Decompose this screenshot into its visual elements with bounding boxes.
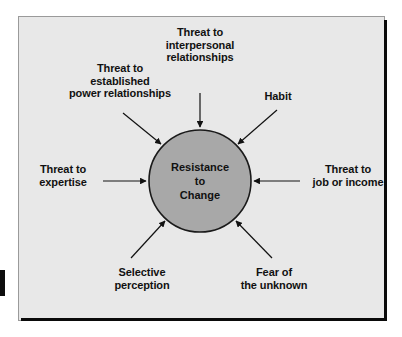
arrow-power-relationships — [123, 113, 161, 144]
label-job-or-income: Threat to job or income — [302, 163, 394, 188]
diagram-canvas: Resistance to Change Threat to interpers… — [0, 0, 402, 337]
label-power-relationships: Threat to established power relationship… — [46, 62, 194, 100]
center-label: Resistance to Change — [150, 160, 250, 202]
label-fear-of-unknown: Fear of the unknown — [228, 266, 320, 291]
label-expertise: Threat to expertise — [22, 163, 104, 188]
arrow-fear-of-unknown — [236, 221, 272, 258]
arrow-habit — [238, 110, 277, 144]
label-interpersonal-relationships: Threat to interpersonal relationships — [140, 26, 260, 64]
label-selective-perception: Selective perception — [100, 266, 184, 291]
label-habit: Habit — [248, 90, 308, 103]
arrow-selective-perception — [131, 221, 165, 258]
